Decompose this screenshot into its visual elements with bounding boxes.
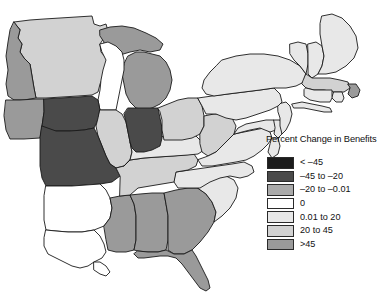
legend-item-6: >45 bbox=[267, 238, 389, 252]
geography-cape-cod bbox=[348, 84, 360, 98]
legend-swatch-2 bbox=[267, 184, 294, 196]
legend-title: Percent Change in Benefits bbox=[266, 134, 377, 144]
state-wisconsin bbox=[98, 42, 124, 110]
map-figure: Percent Change in Benefits < –45 –45 to … bbox=[0, 0, 389, 293]
legend-label-5: 20 to 45 bbox=[300, 225, 333, 236]
state-florida bbox=[134, 250, 210, 291]
state-new-york bbox=[202, 54, 306, 96]
legend-swatch-3 bbox=[267, 198, 294, 210]
legend-item-5: 20 to 45 bbox=[267, 224, 389, 238]
state-michigan-lower bbox=[122, 52, 172, 110]
legend-item-1: –45 to –20 bbox=[267, 170, 389, 184]
legend-label-1: –45 to –20 bbox=[300, 171, 343, 182]
legend-items: < –45 –45 to –20 –20 to –0.01 0 0.01 to … bbox=[267, 156, 389, 251]
state-georgia bbox=[164, 188, 216, 254]
legend-item-4: 0.01 to 20 bbox=[267, 210, 389, 224]
geography-delta bbox=[94, 262, 110, 276]
legend: Percent Change in Benefits < –45 –45 to … bbox=[262, 134, 389, 260]
legend-label-6: >45 bbox=[300, 239, 315, 250]
state-rhode-island bbox=[332, 92, 344, 102]
state-connecticut bbox=[304, 88, 332, 102]
state-plains bbox=[4, 99, 44, 139]
legend-item-0: < –45 bbox=[267, 156, 389, 170]
legend-swatch-1 bbox=[267, 171, 294, 183]
legend-label-4: 0.01 to 20 bbox=[300, 212, 340, 223]
state-alabama bbox=[130, 193, 168, 252]
legend-item-2: –20 to –0.01 bbox=[267, 183, 389, 197]
legend-label-2: –20 to –0.01 bbox=[300, 184, 351, 195]
legend-item-3: 0 bbox=[267, 197, 389, 211]
state-iowa bbox=[42, 96, 100, 131]
legend-swatch-0 bbox=[267, 157, 294, 169]
state-ohio bbox=[158, 98, 204, 140]
legend-swatch-4 bbox=[267, 211, 294, 223]
legend-label-0: < –45 bbox=[300, 157, 323, 168]
legend-label-3: 0 bbox=[300, 198, 305, 209]
geography-long-island bbox=[292, 102, 332, 112]
state-maine bbox=[318, 14, 358, 74]
state-arkansas bbox=[44, 184, 112, 232]
legend-swatch-5 bbox=[267, 225, 294, 237]
legend-swatch-6 bbox=[267, 239, 294, 251]
